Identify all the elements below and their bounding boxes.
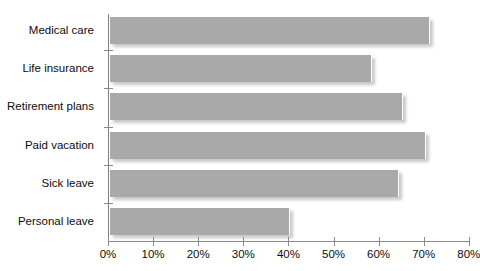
bar xyxy=(110,93,403,120)
bar-track xyxy=(110,170,399,197)
x-axis-tick xyxy=(469,237,470,246)
x-axis-tick-label: 20% xyxy=(187,248,210,260)
bar-track xyxy=(110,55,372,82)
y-axis-tick xyxy=(104,50,113,51)
y-axis-tick xyxy=(104,165,113,166)
bar-track xyxy=(110,93,403,120)
category-label: Life insurance xyxy=(0,55,101,82)
category-label: Sick leave xyxy=(0,170,101,197)
x-axis-tick xyxy=(198,237,199,246)
x-axis-tick xyxy=(108,237,109,246)
y-axis-tick xyxy=(104,127,113,128)
x-axis: 0%10%20%30%40%50%60%70%80% xyxy=(108,241,472,271)
bar xyxy=(110,17,430,44)
x-axis-tick xyxy=(379,237,380,246)
x-axis-tick-label: 0% xyxy=(100,248,117,260)
x-axis-tick-label: 80% xyxy=(457,248,480,260)
bar xyxy=(110,55,372,82)
x-axis-tick xyxy=(243,237,244,246)
bar xyxy=(110,132,426,159)
x-axis-tick-label: 70% xyxy=(412,248,435,260)
x-axis-tick xyxy=(153,237,154,246)
bar-chart: Medical careLife insuranceRetirement pla… xyxy=(0,0,480,271)
bar-track xyxy=(110,208,290,235)
x-axis-tick xyxy=(334,237,335,246)
y-axis-tick xyxy=(104,88,113,89)
category-label: Medical care xyxy=(0,17,101,44)
x-axis-tick-label: 60% xyxy=(367,248,390,260)
plot-area xyxy=(108,14,472,240)
y-axis-category-labels: Medical careLife insuranceRetirement pla… xyxy=(0,17,101,231)
bar-track xyxy=(110,132,426,159)
x-axis-tick-label: 10% xyxy=(142,248,165,260)
bar xyxy=(110,170,399,197)
bar-track xyxy=(110,17,430,44)
x-axis-tick-label: 40% xyxy=(277,248,300,260)
category-label: Personal leave xyxy=(0,208,101,235)
x-axis-tick xyxy=(424,237,425,246)
bar xyxy=(110,208,290,235)
category-label: Paid vacation xyxy=(0,132,101,159)
x-axis-tick-label: 30% xyxy=(232,248,255,260)
x-axis-tick-label: 50% xyxy=(322,248,345,260)
category-label: Retirement plans xyxy=(0,93,101,120)
y-axis-tick xyxy=(104,203,113,204)
x-axis-tick xyxy=(288,237,289,246)
